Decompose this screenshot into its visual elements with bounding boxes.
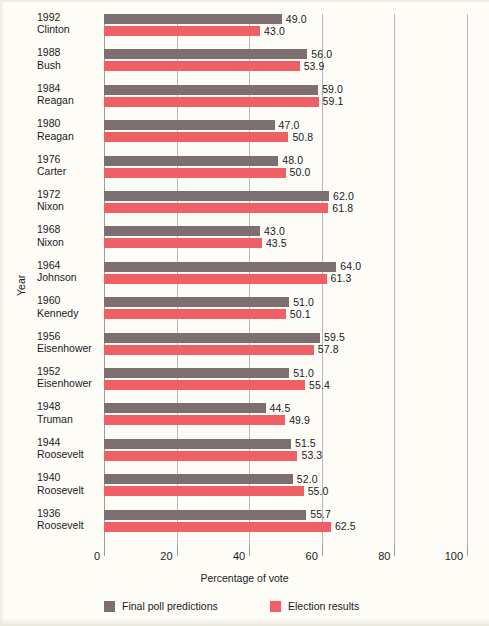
- bar-result: [104, 451, 297, 461]
- y-category-year: 1976: [37, 153, 99, 165]
- y-category-label: 1988Bush: [37, 46, 99, 71]
- bar-poll: [104, 439, 291, 449]
- y-category-label: 1984Reagan: [37, 82, 99, 107]
- x-tick-label-80: 80: [360, 550, 390, 562]
- bar-group: 55.762.5: [104, 510, 467, 534]
- y-category-year: 1988: [37, 46, 99, 58]
- y-category-president: Carter: [37, 165, 99, 177]
- bar-result: [104, 309, 286, 319]
- y-category-label: 1980Reagan: [37, 117, 99, 142]
- x-tick-100: [467, 545, 468, 556]
- bar-value-label: 51.0: [293, 368, 314, 378]
- bar-poll: [104, 510, 306, 520]
- x-tick-0: [104, 545, 105, 556]
- bar-result: [104, 132, 288, 142]
- x-axis-title: Percentage of vote: [0, 572, 489, 584]
- bar-poll: [104, 120, 275, 130]
- x-tick-label-100: 100: [433, 550, 463, 562]
- y-category-label: 1972Nixon: [37, 188, 99, 213]
- bar-value-label: 43.5: [266, 238, 287, 248]
- y-category-president: Roosevelt: [37, 519, 99, 531]
- y-category-president: Nixon: [37, 236, 99, 248]
- chart-legend: Final poll predictionsElection results: [104, 600, 434, 614]
- x-tick-80: [394, 545, 395, 556]
- bar-value-label: 61.8: [332, 203, 353, 213]
- legend-label: Final poll predictions: [122, 600, 218, 612]
- bar-group: 59.059.1: [104, 85, 467, 109]
- bar-value-label: 53.3: [301, 450, 322, 460]
- x-tick-40: [249, 545, 250, 556]
- y-category-president: Truman: [37, 413, 99, 425]
- y-category-year: 1944: [37, 436, 99, 448]
- y-category-label: 1992Clinton: [37, 11, 99, 36]
- bar-value-label: 51.5: [295, 438, 316, 448]
- bar-group: 48.050.0: [104, 156, 467, 180]
- bar-group: 52.055.0: [104, 474, 467, 498]
- y-category-year: 1992: [37, 11, 99, 23]
- y-category-year: 1948: [37, 400, 99, 412]
- bar-value-label: 59.1: [323, 96, 344, 106]
- bar-result: [104, 61, 300, 71]
- bar-value-label: 62.5: [335, 521, 356, 531]
- y-category-label: 1952Eisenhower: [37, 365, 99, 390]
- y-category-year: 1952: [37, 365, 99, 377]
- bar-poll: [104, 85, 318, 95]
- bar-group: 62.061.8: [104, 191, 467, 215]
- bar-result: [104, 415, 285, 425]
- legend-swatch-icon: [270, 601, 281, 612]
- bar-poll: [104, 262, 336, 272]
- y-category-label: 1948Truman: [37, 400, 99, 425]
- bar-group: 47.050.8: [104, 120, 467, 144]
- bar-result: [104, 380, 305, 390]
- bar-value-label: 57.8: [318, 344, 339, 354]
- y-category-president: Roosevelt: [37, 448, 99, 460]
- bar-result: [104, 26, 260, 36]
- legend-item-poll: Final poll predictions: [104, 600, 218, 612]
- bar-poll: [104, 14, 282, 24]
- y-category-president: Clinton: [37, 23, 99, 35]
- legend-swatch-icon: [104, 601, 115, 612]
- y-axis-title: Year: [15, 275, 27, 296]
- y-category-year: 1972: [37, 188, 99, 200]
- x-tick-label-20: 20: [143, 550, 173, 562]
- y-category-year: 1980: [37, 117, 99, 129]
- bar-poll: [104, 226, 260, 236]
- legend-item-result: Election results: [270, 600, 359, 612]
- bar-chart: Year 49.043.056.053.959.059.147.050.848.…: [0, 0, 489, 626]
- legend-label: Election results: [288, 600, 359, 612]
- bar-result: [104, 238, 262, 248]
- bar-result: [104, 345, 314, 355]
- bar-poll: [104, 49, 307, 59]
- y-category-label: 1956Eisenhower: [37, 330, 99, 355]
- bar-value-label: 59.0: [322, 84, 343, 94]
- bar-result: [104, 168, 286, 178]
- y-category-year: 1936: [37, 507, 99, 519]
- bar-value-label: 53.9: [304, 61, 325, 71]
- bar-value-label: 55.7: [310, 509, 331, 519]
- page-edge-bottom: [0, 618, 489, 626]
- bar-group: 51.050.1: [104, 297, 467, 321]
- page-edge-top: [0, 0, 489, 3]
- plot-area: 49.043.056.053.959.059.147.050.848.050.0…: [104, 14, 467, 545]
- bar-value-label: 47.0: [279, 120, 300, 130]
- bar-value-label: 52.0: [297, 474, 318, 484]
- y-category-year: 1940: [37, 471, 99, 483]
- gridline-100: [467, 14, 468, 545]
- bar-value-label: 44.5: [270, 403, 291, 413]
- bar-value-label: 51.0: [293, 297, 314, 307]
- bar-value-label: 50.1: [290, 309, 311, 319]
- x-tick-20: [177, 545, 178, 556]
- bar-value-label: 61.3: [331, 273, 352, 283]
- y-category-president: Reagan: [37, 130, 99, 142]
- x-tick-60: [322, 545, 323, 556]
- bar-value-label: 50.0: [290, 167, 311, 177]
- y-category-label: 1960Kennedy: [37, 294, 99, 319]
- x-tick-label-40: 40: [215, 550, 245, 562]
- y-category-president: Kennedy: [37, 307, 99, 319]
- bar-result: [104, 486, 304, 496]
- bar-group: 51.553.3: [104, 439, 467, 463]
- bar-value-label: 62.0: [333, 191, 354, 201]
- bar-poll: [104, 191, 329, 201]
- y-category-president: Eisenhower: [37, 342, 99, 354]
- bar-result: [104, 97, 319, 107]
